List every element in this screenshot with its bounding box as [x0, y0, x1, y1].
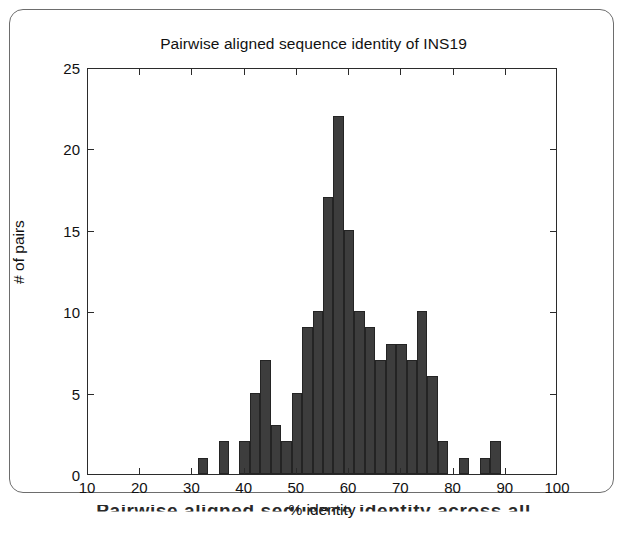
- y-tick-label: 5: [36, 385, 80, 402]
- histogram-bar: [302, 327, 312, 474]
- y-tick-label: 25: [36, 60, 80, 77]
- x-tick-mark-top: [505, 68, 506, 75]
- histogram-bar: [323, 197, 333, 474]
- y-tick-mark: [87, 149, 94, 150]
- x-tick-mark-top: [453, 68, 454, 75]
- histogram-bar: [407, 360, 417, 474]
- y-tick-label: 15: [36, 222, 80, 239]
- histogram-bar: [239, 441, 249, 474]
- x-tick-mark-top: [296, 68, 297, 75]
- y-axis-tick-labels: 0510152025: [33, 0, 80, 539]
- x-tick-label: 70: [376, 479, 424, 496]
- histogram-bar: [292, 393, 302, 474]
- x-tick-mark: [400, 468, 401, 475]
- histogram-bar: [396, 344, 406, 474]
- x-tick-label: 90: [481, 479, 529, 496]
- histogram-bar: [344, 230, 354, 474]
- x-tick-mark-top: [139, 68, 140, 75]
- y-tick-mark-right: [550, 394, 557, 395]
- histogram-bar: [219, 441, 229, 474]
- y-tick-mark: [87, 312, 94, 313]
- x-tick-label: 50: [272, 479, 320, 496]
- x-tick-mark: [453, 468, 454, 475]
- x-tick-label: 40: [220, 479, 268, 496]
- histogram-bar: [427, 376, 437, 474]
- x-tick-mark-top: [244, 68, 245, 75]
- chart-title: Pairwise aligned sequence identity of IN…: [0, 35, 627, 53]
- x-tick-mark: [505, 468, 506, 475]
- x-tick-label: 20: [115, 479, 163, 496]
- histogram-bar: [438, 441, 448, 474]
- y-tick-mark: [87, 394, 94, 395]
- histogram-bar: [375, 360, 385, 474]
- histogram-bar: [198, 458, 208, 474]
- x-tick-mark: [296, 468, 297, 475]
- x-tick-mark: [139, 468, 140, 475]
- histogram-bar: [271, 425, 281, 474]
- plot-area: [87, 68, 557, 475]
- page-caption-partial: Pairwise aligned sequence identity acros…: [0, 505, 627, 539]
- x-tick-mark: [244, 468, 245, 475]
- x-tick-label: 100: [533, 479, 581, 496]
- histogram-bar: [313, 311, 323, 474]
- x-tick-label: 30: [167, 479, 215, 496]
- x-tick-mark: [348, 468, 349, 475]
- y-tick-label: 20: [36, 141, 80, 158]
- x-tick-mark-top: [191, 68, 192, 75]
- histogram-bar: [260, 360, 270, 474]
- histogram-bar: [490, 441, 500, 474]
- y-tick-mark-right: [550, 312, 557, 313]
- x-tick-mark-top: [348, 68, 349, 75]
- histogram-bar: [459, 458, 469, 474]
- histogram-bar: [354, 311, 364, 474]
- histogram-bar: [250, 393, 260, 474]
- histogram-bar: [386, 344, 396, 474]
- x-tick-label: 60: [324, 479, 372, 496]
- histogram-bars: [88, 69, 556, 474]
- y-tick-mark: [87, 231, 94, 232]
- page-caption-text: Pairwise aligned sequence identity acros…: [0, 505, 627, 522]
- histogram-bar: [480, 458, 490, 474]
- y-axis-title: # of pairs: [10, 192, 28, 312]
- x-tick-mark: [191, 468, 192, 475]
- x-tick-label: 80: [429, 479, 477, 496]
- y-tick-mark-right: [550, 149, 557, 150]
- x-tick-label: 10: [63, 479, 111, 496]
- y-tick-label: 10: [36, 304, 80, 321]
- histogram-bar: [281, 441, 291, 474]
- y-tick-mark-right: [550, 231, 557, 232]
- histogram-bar: [365, 327, 375, 474]
- histogram-bar: [417, 311, 427, 474]
- histogram-bar: [333, 116, 343, 474]
- x-tick-mark-top: [400, 68, 401, 75]
